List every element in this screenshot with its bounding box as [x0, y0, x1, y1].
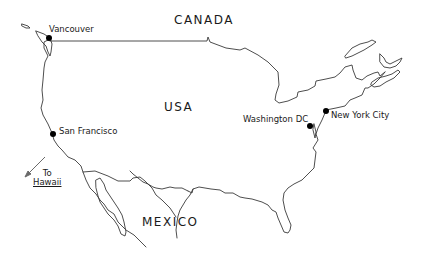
to-hawaii-line2: Hawaii [33, 178, 61, 187]
washington-dc-label: Washington DC [243, 115, 308, 124]
northeast-coast [325, 72, 385, 113]
texas-coast [176, 189, 193, 238]
chesapeake-bay [313, 124, 316, 138]
gulf-coast [130, 171, 188, 191]
baja-california [96, 178, 126, 236]
vancouver-island [22, 24, 30, 28]
to-hawaii-label: To Hawaii [33, 169, 61, 188]
san-francisco-label: San Francisco [59, 127, 117, 136]
canada-label: CANADA [174, 14, 234, 26]
mexico-label: MEXICO [142, 216, 199, 228]
maritimes-outline [345, 40, 376, 58]
west-coast [41, 39, 146, 247]
mexico-border [83, 171, 176, 217]
usa-label: USA [164, 101, 193, 113]
new-york-city-marker-icon [323, 108, 329, 114]
new-york-city-label: New York City [331, 111, 389, 120]
vancouver-label: Vancouver [49, 25, 94, 34]
canada-border [50, 37, 385, 103]
puget-sound [36, 31, 52, 56]
vancouver-marker-icon [46, 35, 52, 41]
gaspe-outline [380, 54, 402, 68]
east-coast [188, 113, 325, 233]
san-francisco-marker-icon [50, 131, 56, 137]
